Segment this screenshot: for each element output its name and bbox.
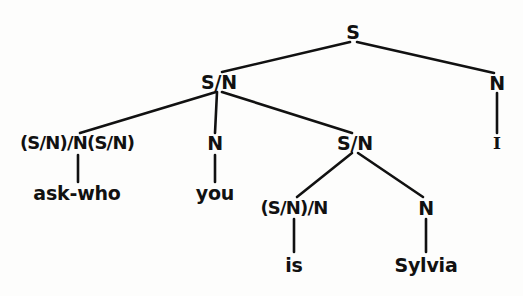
root-to-sn-left bbox=[222, 42, 350, 72]
node-n-right: N bbox=[489, 74, 505, 93]
node-complex-inner: (S/N)/N bbox=[260, 199, 327, 217]
sn-inner-to-n-sylvia bbox=[358, 153, 423, 197]
sn-left-to-n-mid bbox=[215, 92, 217, 133]
syntax-tree-figure: S S/N N I (S/N)/N(S/N) ask-who N you S/N… bbox=[0, 0, 523, 296]
node-n-sylvia: N bbox=[418, 199, 434, 218]
leaf-ask-who: ask-who bbox=[33, 184, 120, 203]
leaf-sylvia: Sylvia bbox=[394, 256, 457, 275]
node-sn-left: S/N bbox=[201, 73, 237, 92]
node-complex-left: (S/N)/N(S/N) bbox=[20, 134, 134, 152]
node-sn-inner: S/N bbox=[337, 134, 373, 153]
leaf-you: you bbox=[196, 184, 234, 203]
node-s-root: S bbox=[346, 23, 359, 42]
sn-left-to-complex-left bbox=[80, 92, 216, 133]
root-to-n-right bbox=[357, 42, 494, 73]
sn-left-to-sn-inner bbox=[222, 92, 352, 133]
node-n-mid: N bbox=[207, 134, 223, 153]
leaf-i: I bbox=[493, 135, 501, 152]
sn-inner-to-complex-inner bbox=[297, 153, 352, 197]
leaf-is: is bbox=[285, 256, 302, 275]
